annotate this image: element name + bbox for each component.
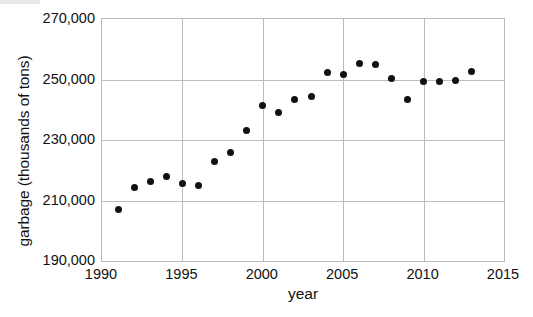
y-axis-tick-label: 270,000 — [5, 11, 101, 26]
gridline-horizontal — [102, 201, 504, 202]
data-point — [356, 60, 363, 67]
data-point — [243, 127, 250, 134]
gridline-horizontal — [102, 80, 504, 81]
x-axis-tick-label: 2015 — [468, 266, 533, 282]
data-point — [436, 78, 443, 85]
data-point — [388, 75, 395, 82]
scatter-chart-figure: garbage (thousands of tons) 190,000210,0… — [0, 0, 533, 317]
gridline-vertical — [263, 19, 264, 261]
y-axis-tick-label: 210,000 — [5, 193, 101, 208]
data-point — [308, 93, 315, 100]
gridline-vertical — [182, 19, 183, 261]
data-point — [340, 71, 347, 78]
data-point — [275, 109, 282, 116]
data-point — [227, 149, 234, 156]
data-point — [115, 206, 122, 213]
gridline-horizontal — [102, 140, 504, 141]
x-axis-tick-label: 2005 — [307, 266, 377, 282]
plot-area — [101, 18, 505, 262]
data-point — [195, 182, 202, 189]
data-point — [291, 96, 298, 103]
y-axis-tick-label: 250,000 — [5, 72, 101, 87]
data-point — [404, 96, 411, 103]
data-point — [420, 78, 427, 85]
x-axis-tick-label: 1995 — [146, 266, 216, 282]
data-point — [147, 178, 154, 185]
data-point — [179, 180, 186, 187]
data-point — [163, 173, 170, 180]
data-point — [259, 102, 266, 109]
data-point — [211, 158, 218, 165]
data-point — [324, 69, 331, 76]
data-point — [468, 68, 475, 75]
x-axis-title: year — [101, 285, 505, 303]
gridline-vertical — [424, 19, 425, 261]
data-point — [372, 61, 379, 68]
x-axis-tick-label: 2000 — [227, 266, 297, 282]
data-point — [452, 77, 459, 84]
y-axis-tick-label: 230,000 — [5, 132, 101, 147]
gridline-vertical — [343, 19, 344, 261]
x-axis-tick-label: 1990 — [66, 266, 136, 282]
data-point — [131, 184, 138, 191]
x-axis-tick-label: 2010 — [388, 266, 458, 282]
